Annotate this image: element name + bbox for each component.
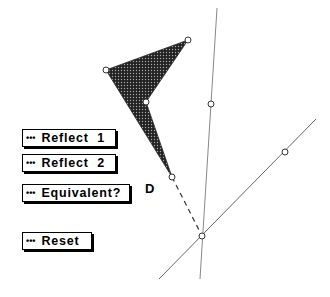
equivalent-button[interactable]: ••• Equivalent? [22, 184, 130, 202]
button-label: Reflect 1 [41, 131, 105, 145]
mirror-line-2[interactable] [159, 119, 316, 279]
button-label: Reset [41, 234, 79, 248]
dashed-segment [172, 177, 202, 236]
point-inner[interactable] [143, 99, 149, 105]
shaded-figure[interactable] [106, 40, 188, 177]
point-d[interactable] [169, 174, 175, 180]
point-line2[interactable] [282, 149, 288, 155]
reflect-2-button[interactable]: ••• Reflect 2 [22, 154, 116, 172]
geometry-canvas[interactable] [0, 0, 330, 297]
point-intersection[interactable] [199, 233, 205, 239]
action-dots-icon: ••• [26, 158, 35, 168]
point-top-right[interactable] [185, 37, 191, 43]
action-dots-icon: ••• [26, 133, 35, 143]
point-left[interactable] [103, 67, 109, 73]
reflect-1-button[interactable]: ••• Reflect 1 [22, 129, 116, 147]
button-label: Reflect 2 [41, 156, 105, 170]
reset-button[interactable]: ••• Reset [22, 232, 92, 250]
point-line1[interactable] [208, 101, 214, 107]
action-dots-icon: ••• [26, 236, 35, 246]
label-d: D [145, 181, 154, 196]
button-label: Equivalent? [41, 186, 121, 200]
action-dots-icon: ••• [26, 188, 35, 198]
